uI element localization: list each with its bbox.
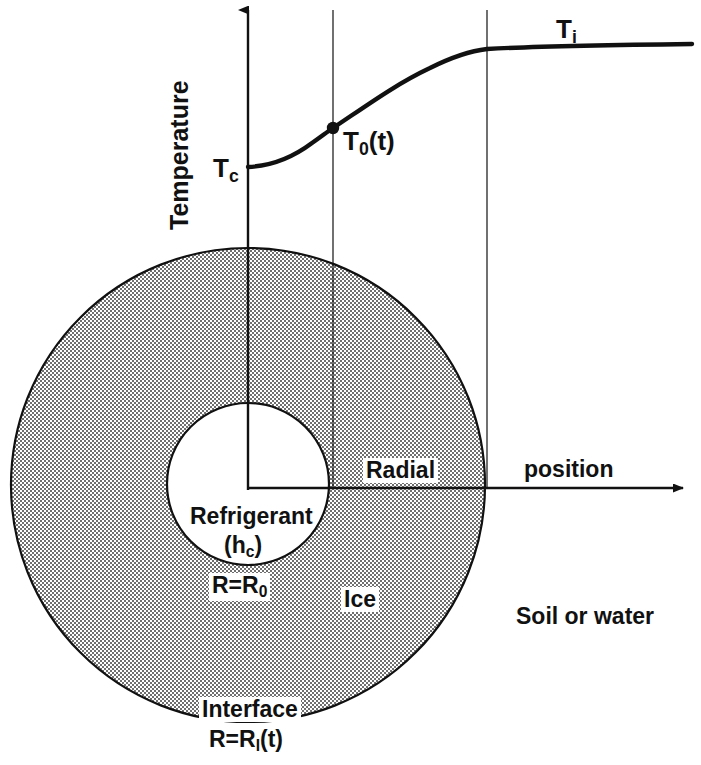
label-refrigerant-coefficient: (hc)	[224, 534, 262, 560]
label-tc: Tc	[213, 155, 239, 186]
label-tc-base: T	[213, 153, 229, 183]
x-axis-label-position: position	[524, 458, 613, 481]
label-ri-suffix: (t)	[260, 726, 283, 752]
label-inner-radius: R=R0	[209, 573, 270, 601]
label-r0-base: R=R	[212, 572, 259, 598]
y-axis-label: Temperature	[167, 80, 192, 230]
label-refrigerant: Refrigerant	[190, 505, 313, 528]
label-tc-subscript: c	[229, 166, 239, 186]
label-ti-subscript: i	[572, 27, 577, 47]
temperature-profile-curve	[248, 44, 692, 167]
label-interface: Interface	[199, 697, 301, 722]
label-t0-suffix: (t)	[369, 126, 395, 156]
label-r0-subscript: 0	[259, 583, 268, 600]
label-hc-open: (h	[224, 532, 246, 558]
label-hc-close: )	[254, 532, 262, 558]
label-ice: Ice	[341, 587, 379, 612]
label-t0: T0(t)	[343, 128, 395, 159]
label-ti: Ti	[556, 16, 577, 47]
figure-canvas	[0, 0, 701, 765]
x-axis-label-radial: Radial	[363, 458, 438, 483]
label-ri-base: R=R	[209, 726, 256, 752]
label-t0-subscript: 0	[359, 139, 369, 159]
t0-marker-dot	[327, 122, 339, 134]
temperature-radial-position-figure: Temperature Tc T0(t) Ti Radial position …	[0, 0, 701, 765]
label-ti-base: T	[556, 14, 572, 44]
label-soil-or-water: Soil or water	[516, 605, 654, 628]
label-interface-radius: R=RI(t)	[209, 728, 283, 754]
label-t0-base: T	[343, 126, 359, 156]
